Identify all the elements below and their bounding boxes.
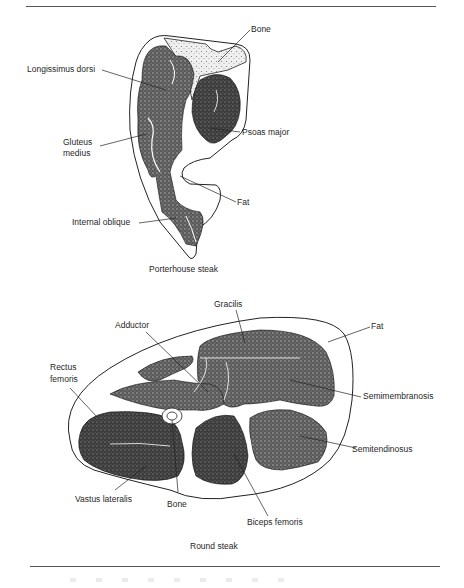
round-steak-drawing — [68, 310, 370, 516]
label-bone-porterhouse: Bone — [251, 24, 271, 35]
round-biceps-muscle — [192, 415, 248, 484]
label-biceps-femoris: Biceps femoris — [247, 517, 303, 528]
bottom-rule — [30, 566, 440, 567]
label-psoas-major: Psoas major — [242, 127, 289, 138]
label-vastus-lateralis: Vastus lateralis — [75, 494, 132, 505]
caption-round-steak: Round steak — [190, 541, 238, 551]
label-bone-round: Bone — [167, 499, 187, 510]
caption-porterhouse-steak: Porterhouse steak — [149, 264, 218, 274]
label-fat-porterhouse: Fat — [237, 197, 249, 208]
label-adductor: Adductor — [115, 320, 149, 331]
steak-cross-sections-illustration — [0, 0, 464, 588]
label-internal-oblique: Internal oblique — [72, 217, 130, 228]
label-rectus-femoris-line1: Rectus — [50, 362, 76, 373]
label-gluteus-medius-line1: Gluteus — [63, 137, 92, 148]
label-fat-round: Fat — [371, 321, 383, 332]
label-semimembranosis: Semimembranosis — [363, 391, 433, 402]
bleed-through-text — [70, 578, 300, 582]
label-semitendinosus: Semitendinosus — [352, 444, 412, 455]
label-rectus-femoris-line2: femoris — [50, 374, 78, 385]
label-gracilis: Gracilis — [214, 299, 242, 310]
label-longissimus-dorsi: Longissimus dorsi — [27, 64, 95, 75]
label-gluteus-medius-line2: medius — [63, 148, 90, 159]
